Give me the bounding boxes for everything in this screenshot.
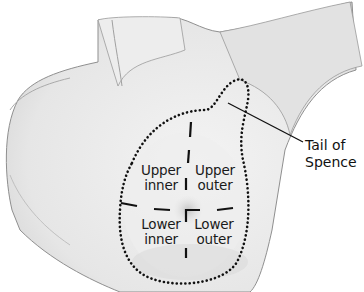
lower-inner-line2: inner <box>136 232 186 247</box>
breast-quadrant-diagram: Upper inner Upper outer Lower inner Lowe… <box>0 0 364 292</box>
upper-outer-line1: Upper <box>190 163 240 178</box>
lower-outer-line1: Lower <box>189 217 239 232</box>
upper-inner-line2: inner <box>136 178 186 193</box>
label-lower-outer: Lower outer <box>189 217 239 247</box>
callout-line1: Tail of <box>305 137 357 154</box>
label-lower-inner: Lower inner <box>136 217 186 247</box>
lower-outer-line2: outer <box>189 232 239 247</box>
callout-tail-of-spence: Tail of Spence <box>305 137 357 171</box>
upper-inner-line1: Upper <box>136 163 186 178</box>
upper-outer-line2: outer <box>190 178 240 193</box>
callout-line2: Spence <box>305 154 357 171</box>
lower-inner-line1: Lower <box>136 217 186 232</box>
label-upper-outer: Upper outer <box>190 163 240 193</box>
label-upper-inner: Upper inner <box>136 163 186 193</box>
